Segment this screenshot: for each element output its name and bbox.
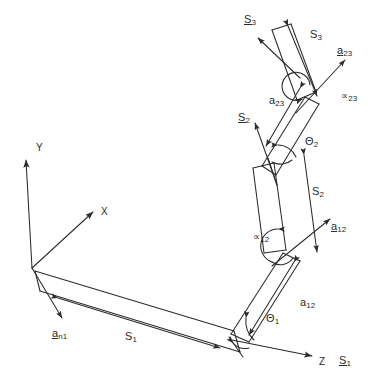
label-a12-vector: a12	[331, 221, 346, 234]
label-an1-vector: an1	[52, 328, 67, 341]
label-a12-scalar: a12	[300, 297, 315, 310]
label-s3-scalar: S3	[310, 29, 322, 42]
label-s2-vector: S2	[238, 112, 250, 125]
label-theta2-angle: Θ2	[305, 136, 318, 149]
vector-an1-arrow	[32, 268, 62, 318]
label-s3-vector: S3	[244, 14, 256, 27]
axis-x-line	[32, 212, 93, 268]
label-a23-vector: a23	[337, 45, 352, 58]
link-s3-edge-left	[272, 30, 297, 100]
label-alpha23-angle: ∝23	[341, 90, 357, 103]
axis-label-y: Y	[36, 143, 43, 153]
axis-y-line	[26, 160, 32, 268]
vector-a12-arrow	[272, 219, 330, 266]
link-s1-edge-bottom	[40, 291, 240, 352]
label-s1-scalar: S1	[125, 331, 137, 344]
vector-a23-arrow	[296, 60, 345, 113]
vector-s3-arrow	[258, 38, 300, 78]
dim-s1-arrow	[58, 298, 220, 348]
label-theta1-angle: Θ1	[266, 313, 279, 326]
axis-z-s1-line	[232, 340, 312, 356]
link-a12-edge-right	[249, 261, 300, 342]
link-s2-edge-right	[274, 163, 286, 250]
link-s2-cap-near	[264, 250, 286, 253]
dim-s2-arrow	[304, 155, 317, 252]
angle-alpha12-arc2	[272, 258, 293, 265]
axis-label-z: Z	[319, 357, 325, 367]
link-a23-cap-near	[262, 166, 276, 175]
axis-label-x: X	[101, 207, 108, 217]
link-s1-end-wedge	[229, 337, 243, 357]
label-s2-scalar: S2	[312, 186, 324, 199]
label-a23-scalar: a23	[269, 95, 284, 108]
label-s1-vector: S1	[339, 355, 351, 368]
label-alpha12-angle: ∝12	[253, 231, 269, 244]
global-axes-group	[26, 160, 93, 268]
angle-theta2-arc2	[272, 160, 292, 164]
kinematic-diagram: Y X Z S3 S3 a23 a23 ∝23 S2 Θ2 S2 a12 ∝12…	[0, 0, 377, 388]
link-a12-body	[231, 253, 300, 342]
link-s3-cap-near	[297, 92, 316, 100]
